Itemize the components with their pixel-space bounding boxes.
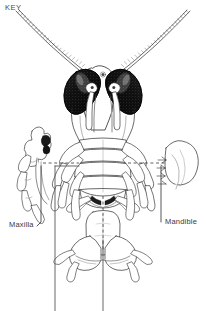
anatomical-figure: KEY Maxilla Mandible — [0, 0, 206, 311]
label-mandible: Mandible — [165, 217, 197, 226]
inset-mandible — [157, 141, 198, 189]
key-title: KEY — [5, 3, 22, 12]
figure-drawing — [0, 0, 206, 311]
inset-maxilla — [17, 127, 51, 224]
antenna-right-icon — [120, 10, 190, 74]
label-maxilla: Maxilla — [9, 220, 34, 229]
thoracic-segments — [75, 138, 131, 192]
antenna-left-icon — [16, 10, 86, 74]
